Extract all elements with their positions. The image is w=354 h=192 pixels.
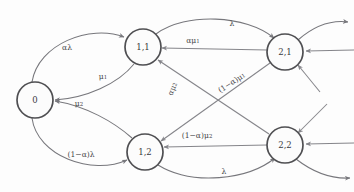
edge-label-0-to-12: (1−α)λ	[67, 150, 94, 159]
edge-label-22-to-12-base: (1−α)μ	[182, 131, 209, 140]
edge-22-to-12	[164, 145, 267, 147]
node-2-2-label: 2,2	[278, 140, 292, 150]
markov-chain-diagram: 0 1,1 1,2 2,1 2,2 αλ μ1 (1−	[0, 0, 354, 192]
node-2-1-label: 2,1	[278, 47, 292, 57]
boundary-edge-22-in-upper	[298, 104, 327, 133]
node-1-1[interactable]: 1,1	[125, 29, 161, 65]
edge-12-to-0	[55, 101, 132, 138]
edge-label-11-to-0: μ1	[99, 72, 107, 81]
node-2-2[interactable]: 2,2	[267, 127, 303, 163]
edge-22-to-11	[158, 60, 269, 134]
edge-label-12-to-0-sub: 2	[80, 101, 83, 107]
boundary-edge-22-in-right	[306, 143, 354, 144]
boundary-edge-22-out-lower	[296, 159, 350, 178]
edge-label-22-to-12: (1−α)μ2	[182, 131, 213, 140]
node-1-2[interactable]: 1,2	[127, 134, 163, 170]
node-1-1-label: 1,1	[136, 42, 150, 52]
boundary-edge-21-in-lower	[298, 65, 320, 92]
edge-label-21-to-11-base: αμ	[186, 36, 196, 45]
boundary-edge-21-out-up	[298, 22, 348, 40]
edge-21-to-11	[162, 48, 267, 50]
node-0-label: 0	[32, 95, 37, 105]
edge-label-12-to-0: μ2	[75, 99, 83, 108]
edge-label-22-to-11-sub: 2	[172, 82, 179, 87]
boundary-edge-21-in-right	[306, 50, 354, 51]
edge-label-21-to-11: αμ1	[186, 36, 200, 45]
node-0[interactable]: 0	[17, 82, 53, 118]
node-1-2-label: 1,2	[138, 147, 152, 157]
edge-label-22-to-11: αμ2	[166, 81, 179, 97]
edge-12-to-22	[158, 158, 275, 178]
edge-label-0-to-11: αλ	[62, 43, 72, 52]
edge-0-to-11	[32, 33, 124, 82]
edge-11-to-21	[156, 19, 274, 38]
edge-11-to-0	[55, 64, 134, 100]
node-2-1[interactable]: 2,1	[267, 34, 303, 70]
edge-label-11-to-0-sub: 1	[104, 74, 107, 80]
edge-21-to-12	[161, 63, 270, 141]
edge-label-21-to-11-sub: 1	[196, 38, 199, 44]
edge-label-11-to-21: λ	[230, 19, 235, 28]
edge-label-22-to-12-sub: 2	[209, 133, 212, 139]
edge-label-12-to-22: λ	[222, 167, 227, 176]
state-transition-graph: 0 1,1 1,2 2,1 2,2 αλ μ1 (1−	[0, 0, 354, 192]
